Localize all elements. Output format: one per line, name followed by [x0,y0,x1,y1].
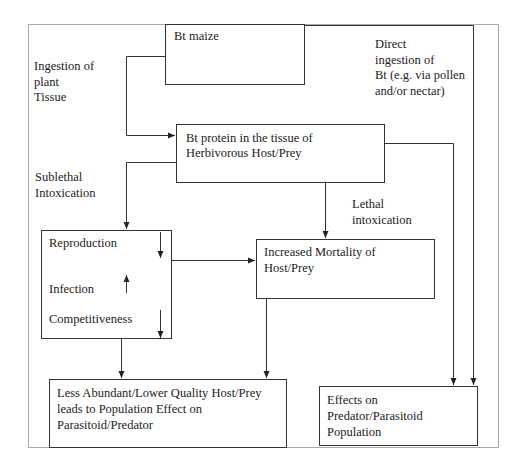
ingestion-label-2: plant [34,75,59,90]
less-abundant-line-1: Less Abundant/Lower Quality Host/Prey [57,386,262,401]
bt-protein-line-1: Bt protein in the tissue of [186,131,313,146]
competitiveness-label: Competitiveness [49,312,132,327]
mortality-line-1: Increased Mortality of [264,245,376,260]
ingestion-label-1: Ingestion of [34,59,94,74]
less-abundant-line-3: Parasitoid/Predator [57,418,153,433]
reproduction-label: Reproduction [49,236,117,251]
less-abundant-line-2: leads to Population Effect on [57,402,202,417]
infection-label: Infection [49,282,94,297]
direct-label-3: Bt (e.g. via pollen [375,68,465,83]
bt-maize-label: Bt maize [174,29,219,44]
direct-label-1: Direct [375,37,406,52]
mortality-line-2: Host/Prey [264,261,314,276]
predator-effects-line-2: Predator/Parasitoid [327,409,423,424]
sublethal-connector [127,163,177,230]
sublethal-label-1: Sublethal [35,170,82,185]
predator-effects-line-3: Population [327,425,381,440]
lethal-label-2: intoxication [352,213,412,228]
lethal-label-1: Lethal [352,197,384,212]
direct-label-2: ingestion of [375,53,434,68]
predator-effects-line-1: Effects on [327,393,378,408]
ingestion-label-3: Tissue [34,90,66,105]
direct-label-4: and/or nectar) [375,84,445,99]
bt-protein-line-2: Herbivorous Host/Prey [186,146,302,161]
sublethal-label-2: Intoxication [35,186,95,201]
